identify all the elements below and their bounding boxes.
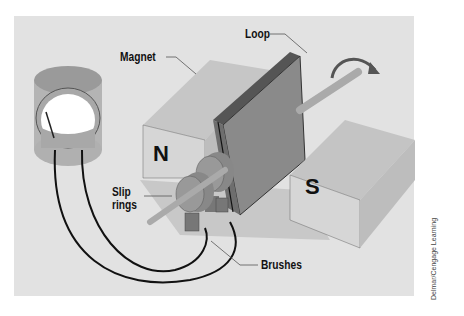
north-pole-label: N <box>153 141 169 167</box>
slip-rings-label-line2: rings <box>112 199 137 212</box>
slip-rings-label: Slip rings <box>112 186 137 212</box>
arrowhead-icon <box>368 62 380 74</box>
generator-illustration <box>0 0 464 316</box>
credit-text: Delmar/Cengage Learning <box>430 218 437 300</box>
shaft <box>300 72 358 110</box>
loop-label: Loop <box>245 28 270 41</box>
south-pole-label: S <box>305 174 320 200</box>
magnet-label: Magnet <box>120 51 156 64</box>
meter-icon <box>34 66 102 166</box>
brushes-label: Brushes <box>261 259 302 272</box>
